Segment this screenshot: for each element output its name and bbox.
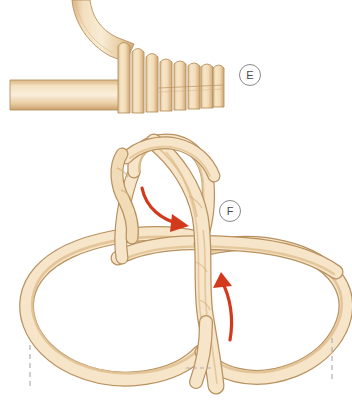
step-label-f: F [219,200,241,222]
knot-diagram [0,0,352,401]
diagram-background [0,0,352,401]
standing-rope-horizontal [10,80,126,110]
step-label-e: E [239,64,261,86]
